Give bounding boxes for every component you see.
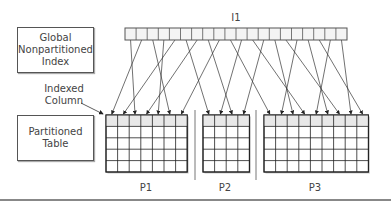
index-pointer-arrows [112, 40, 363, 114]
partition-grids [106, 115, 370, 174]
bottom-rule [0, 199, 391, 201]
index-diagram [0, 0, 391, 202]
indexed-column-callout [81, 103, 103, 114]
index-entries-bar [125, 28, 347, 40]
